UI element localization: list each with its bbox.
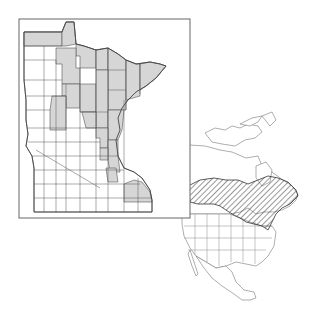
county-wadena-todd: [50, 96, 66, 130]
county-anoka-ramsey: [100, 148, 108, 160]
greenland-edge: [262, 112, 276, 126]
distribution-map-figure: [0, 0, 327, 323]
county-crow-wing-aitkin: [96, 70, 108, 128]
arctic-islands: [205, 124, 262, 146]
county-itasca: [96, 48, 108, 70]
county-kittson-roseau: [24, 32, 62, 46]
county-cass: [80, 84, 96, 112]
ellesmere-outline: [240, 116, 262, 126]
county-lake: [126, 60, 140, 100]
